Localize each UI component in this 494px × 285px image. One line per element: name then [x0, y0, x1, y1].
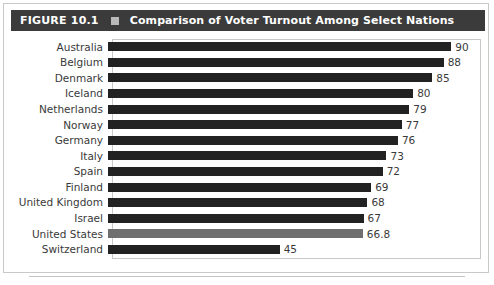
bar-value-label: 68: [371, 197, 384, 208]
bar-value-label: 77: [406, 120, 419, 131]
bar: [108, 214, 364, 223]
bar-row: United States66.8: [11, 226, 485, 242]
bottom-divider: [29, 276, 465, 277]
bar-category-label: Norway: [11, 120, 108, 131]
figure-container: FIGURE 10.1 Comparison of Voter Turnout …: [3, 3, 489, 273]
bar-row: Germany76: [11, 133, 485, 149]
bar-value-label: 69: [375, 182, 388, 193]
bar-row: Spain72: [11, 164, 485, 180]
bar-track: 73: [108, 148, 485, 164]
bar-track: 85: [108, 70, 485, 86]
bar-row: Belgium88: [11, 55, 485, 71]
bar: [108, 198, 367, 207]
bar: [108, 89, 413, 98]
bar-value-label: 79: [413, 104, 426, 115]
bar-rows: Australia90Belgium88Denmark85Iceland80Ne…: [11, 39, 485, 259]
bar-value-label: 66.8: [367, 229, 390, 240]
bar-track: 69: [108, 179, 485, 195]
chart-region: Australia90Belgium88Denmark85Iceland80Ne…: [11, 36, 485, 264]
bar-category-label: Spain: [11, 166, 108, 177]
bar-value-label: 85: [436, 73, 449, 84]
bar-highlighted: [108, 229, 363, 238]
bar-category-label: Italy: [11, 151, 108, 162]
bar-value-label: 45: [284, 244, 297, 255]
bar-track: 79: [108, 101, 485, 117]
bar-row: Israel67: [11, 211, 485, 227]
bar-value-label: 72: [387, 166, 400, 177]
bar-value-label: 80: [417, 88, 430, 99]
bar-track: 77: [108, 117, 485, 133]
bar-category-label: Switzerland: [11, 244, 108, 255]
bar: [108, 58, 444, 67]
figure-header: FIGURE 10.1 Comparison of Voter Turnout …: [11, 10, 485, 31]
bar-row: Australia90: [11, 39, 485, 55]
bar-value-label: 88: [448, 57, 461, 68]
bar: [108, 245, 280, 254]
bar-track: 88: [108, 55, 485, 71]
bar-value-label: 67: [368, 213, 381, 224]
bar-category-label: Israel: [11, 213, 108, 224]
bar-row: Finland69: [11, 179, 485, 195]
bar: [108, 151, 386, 160]
bar: [108, 73, 432, 82]
bar: [108, 167, 383, 176]
bar-category-label: Iceland: [11, 88, 108, 99]
bar-track: 66.8: [108, 226, 485, 242]
bar-category-label: United States: [11, 229, 108, 240]
bar-track: 80: [108, 86, 485, 102]
bar-track: 76: [108, 133, 485, 149]
bar-category-label: Belgium: [11, 57, 108, 68]
figure-number-label: FIGURE 10.1: [20, 14, 99, 27]
bar-value-label: 90: [455, 42, 468, 53]
bar-value-label: 73: [390, 151, 403, 162]
figure-title: Comparison of Voter Turnout Among Select…: [130, 14, 455, 27]
bar-category-label: Australia: [11, 42, 108, 53]
bar: [108, 136, 398, 145]
bar-category-label: United Kingdom: [11, 197, 108, 208]
bar-row: United Kingdom68: [11, 195, 485, 211]
bar-track: 90: [108, 39, 485, 55]
bar-track: 68: [108, 195, 485, 211]
bar-category-label: Germany: [11, 135, 108, 146]
bar-row: Italy73: [11, 148, 485, 164]
bar: [108, 120, 402, 129]
bar-category-label: Netherlands: [11, 104, 108, 115]
bar-category-label: Finland: [11, 182, 108, 193]
bar-row: Switzerland45: [11, 242, 485, 258]
bar-category-label: Denmark: [11, 73, 108, 84]
bar: [108, 42, 451, 51]
bar-track: 72: [108, 164, 485, 180]
filled-square-icon: [111, 17, 119, 25]
bar: [108, 105, 409, 114]
bar-track: 45: [108, 242, 485, 258]
bar-row: Denmark85: [11, 70, 485, 86]
bar-row: Norway77: [11, 117, 485, 133]
bar-row: Netherlands79: [11, 101, 485, 117]
bar-row: Iceland80: [11, 86, 485, 102]
bar-value-label: 76: [402, 135, 415, 146]
bar: [108, 183, 371, 192]
bar-track: 67: [108, 211, 485, 227]
